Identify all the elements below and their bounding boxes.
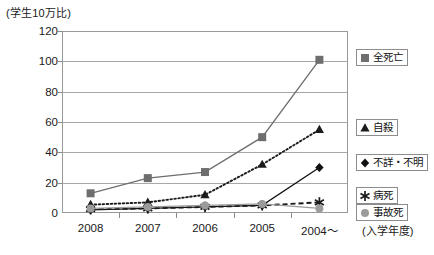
data-point-square bbox=[361, 54, 369, 62]
data-point-circle bbox=[258, 200, 266, 208]
y-axis-tick-label: 0 bbox=[12, 207, 58, 219]
data-point-square bbox=[87, 189, 95, 197]
series-layer bbox=[62, 31, 348, 213]
circle-marker-icon bbox=[360, 208, 370, 218]
legend-item-label: 全死亡 bbox=[373, 51, 403, 64]
chart-legend: 全死亡自殺不詳・不明病死事故死 bbox=[356, 0, 434, 255]
legend-item-不詳・不明[interactable]: 不詳・不明 bbox=[356, 154, 428, 171]
legend-item-自殺[interactable]: 自殺 bbox=[356, 119, 398, 136]
legend-item-label: 事故死 bbox=[373, 206, 403, 219]
line-chart: (学生10万比) 020406080100120 200820072006200… bbox=[0, 0, 434, 255]
x-axis-tick-mark bbox=[176, 213, 177, 218]
x-axis-tick-label: 2008 bbox=[78, 222, 104, 234]
legend-item-全死亡[interactable]: 全死亡 bbox=[356, 49, 408, 66]
x-axis-tick-label: 2006 bbox=[192, 222, 218, 234]
legend-item-事故死[interactable]: 事故死 bbox=[356, 204, 408, 221]
data-point-square bbox=[258, 133, 266, 141]
y-axis-tick-mark bbox=[57, 61, 62, 62]
y-axis-tick-labels: 020406080100120 bbox=[8, 31, 58, 213]
y-axis-tick-mark bbox=[57, 31, 62, 32]
y-axis-tick-label: 100 bbox=[12, 55, 58, 67]
legend-item-label: 病死 bbox=[373, 189, 393, 202]
data-point-triangle bbox=[258, 160, 267, 168]
data-point-square bbox=[201, 168, 209, 176]
series-全死亡 bbox=[87, 56, 324, 197]
y-axis-tick-label: 20 bbox=[12, 177, 58, 189]
data-point-square bbox=[315, 56, 323, 64]
data-point-circle bbox=[144, 203, 152, 211]
y-axis-tick-label: 80 bbox=[12, 86, 58, 98]
data-point-triangle bbox=[315, 125, 324, 133]
data-point-circle bbox=[87, 204, 95, 212]
y-axis-tick-mark bbox=[57, 183, 62, 184]
data-point-square bbox=[144, 174, 152, 182]
data-point-asterisk bbox=[361, 191, 370, 201]
legend-item-label: 自殺 bbox=[373, 121, 393, 134]
x-axis-tick-mark bbox=[119, 213, 120, 218]
x-axis-tick-label: 2007 bbox=[135, 222, 161, 234]
x-axis-tick-label: 2004〜 bbox=[301, 222, 338, 238]
y-axis-tick-mark bbox=[57, 92, 62, 93]
y-axis-tick-label: 120 bbox=[12, 25, 58, 37]
y-axis-tick-label: 40 bbox=[12, 146, 58, 158]
data-point-triangle bbox=[200, 190, 209, 198]
y-axis-tick-mark bbox=[57, 122, 62, 123]
x-axis-tick-mark bbox=[291, 213, 292, 218]
data-point-triangle bbox=[360, 123, 369, 131]
legend-item-病死[interactable]: 病死 bbox=[356, 187, 398, 204]
x-axis-tick-mark bbox=[234, 213, 235, 218]
y-axis-tick-mark bbox=[57, 152, 62, 153]
legend-item-label: 不詳・不明 bbox=[373, 156, 423, 169]
square-marker-icon bbox=[360, 53, 370, 63]
data-point-diamond bbox=[361, 158, 369, 167]
series-自殺 bbox=[86, 125, 324, 208]
y-axis-tick-label: 60 bbox=[12, 116, 58, 128]
triangle-marker-icon bbox=[360, 123, 370, 133]
data-point-circle bbox=[361, 209, 369, 217]
diamond-marker-icon bbox=[360, 158, 370, 168]
y-axis-unit-label: (学生10万比) bbox=[6, 4, 71, 20]
x-axis-tick-label: 2005 bbox=[249, 222, 275, 234]
data-point-circle bbox=[315, 204, 323, 212]
asterisk-marker-icon bbox=[360, 191, 370, 201]
data-point-diamond bbox=[315, 163, 323, 172]
data-point-circle bbox=[201, 201, 209, 209]
